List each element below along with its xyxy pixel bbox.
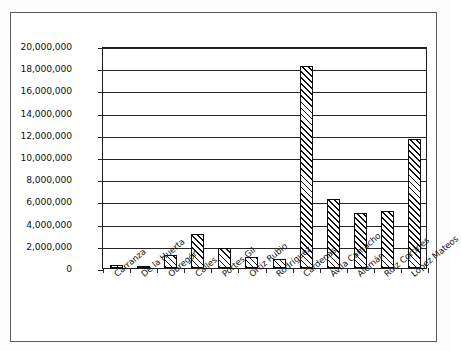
y-axis-tick-label: 18,000,000 xyxy=(0,64,72,73)
y-axis-tick-label: 4,000,000 xyxy=(0,220,72,229)
y-axis-tick-label: 16,000,000 xyxy=(0,86,72,95)
y-axis-tick-label: 2,000,000 xyxy=(0,242,72,251)
y-axis-tick-label: 0 xyxy=(0,264,72,273)
y-axis-tick-label: 10,000,000 xyxy=(0,153,72,162)
y-axis-tick-label: 6,000,000 xyxy=(0,197,72,206)
bar xyxy=(300,66,313,268)
y-axis-tick-label: 20,000,000 xyxy=(0,42,72,51)
x-axis-labels-group: CarranzaDe la HuertaObregónCallesPortes … xyxy=(102,271,427,347)
figure-outer-border: 20,000,00018,000,00016,000,00014,000,000… xyxy=(10,12,437,342)
y-axis-tick-label: 12,000,000 xyxy=(0,131,72,140)
x-axis-tick-mark xyxy=(428,268,429,273)
y-axis-tick-label: 8,000,000 xyxy=(0,175,72,184)
y-axis-tick-label: 14,000,000 xyxy=(0,109,72,118)
